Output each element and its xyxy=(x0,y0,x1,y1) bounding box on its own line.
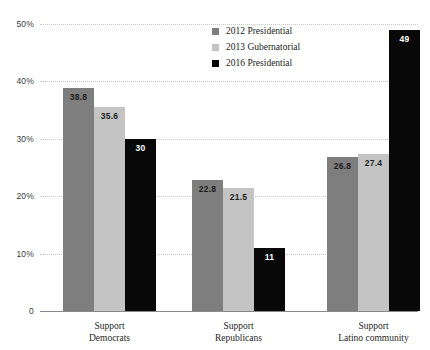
y-axis-tick-label: 40% xyxy=(0,76,34,86)
y-axis-tick-label: 20% xyxy=(0,191,34,201)
legend: 2012 Presidential2013 Gubernatorial2016 … xyxy=(212,26,300,68)
legend-item[interactable]: 2013 Gubernatorial xyxy=(212,42,300,52)
legend-item[interactable]: 2012 Presidential xyxy=(212,26,300,36)
y-axis-tick-label: 0 xyxy=(0,306,34,316)
x-axis-label-line: Support xyxy=(304,320,430,332)
x-axis-category-label: SupportRepublicans xyxy=(169,320,309,344)
x-axis-category-label: SupportLatino community xyxy=(304,320,430,344)
legend-label: 2013 Gubernatorial xyxy=(226,42,300,52)
bar[interactable]: 27.4 xyxy=(358,154,389,311)
y-axis-tick-label: 10% xyxy=(0,249,34,259)
bar-group: 38.835.630 xyxy=(63,24,156,311)
bar-value-label: 27.4 xyxy=(358,158,389,168)
x-axis-label-line: Republicans xyxy=(169,332,309,344)
bar[interactable]: 49 xyxy=(389,30,420,311)
bar-chart: 010%20%30%40%50% 38.835.63022.821.51126.… xyxy=(0,0,430,350)
x-axis-label-line: Democrats xyxy=(40,332,180,344)
bar[interactable]: 21.5 xyxy=(223,188,254,311)
x-axis-category-label: SupportDemocrats xyxy=(40,320,180,344)
bar-value-label: 22.8 xyxy=(192,184,223,194)
bar-value-label: 30 xyxy=(125,143,156,153)
legend-label: 2012 Presidential xyxy=(226,26,292,36)
bar-value-label: 21.5 xyxy=(223,192,254,202)
bar[interactable]: 38.8 xyxy=(63,88,94,311)
x-axis-label-line: Support xyxy=(40,320,180,332)
x-axis-label-line: Support xyxy=(169,320,309,332)
legend-swatch-icon xyxy=(212,28,219,35)
bar-value-label: 38.8 xyxy=(63,92,94,102)
bar-value-label: 49 xyxy=(389,34,420,44)
y-axis-tick-label: 50% xyxy=(0,19,34,29)
legend-swatch-icon xyxy=(212,44,219,51)
bar[interactable]: 26.8 xyxy=(327,157,358,311)
x-axis-label-line: Latino community xyxy=(304,332,430,344)
bar[interactable]: 30 xyxy=(125,139,156,311)
bar[interactable]: 11 xyxy=(254,248,285,311)
legend-label: 2016 Presidential xyxy=(226,58,292,68)
y-axis-tick-label: 30% xyxy=(0,134,34,144)
bar[interactable]: 35.6 xyxy=(94,107,125,311)
bar[interactable]: 22.8 xyxy=(192,180,223,311)
legend-item[interactable]: 2016 Presidential xyxy=(212,58,300,68)
bar-value-label: 26.8 xyxy=(327,161,358,171)
bar-group: 26.827.449 xyxy=(327,24,420,311)
axis-line-zero xyxy=(40,311,418,312)
legend-swatch-icon xyxy=(212,60,219,67)
bar-value-label: 35.6 xyxy=(94,111,125,121)
bar-value-label: 11 xyxy=(254,252,285,262)
